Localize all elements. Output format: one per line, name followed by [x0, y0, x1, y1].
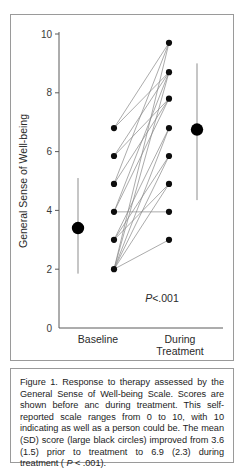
pair-line-9 [114, 156, 169, 269]
y-tick-label-10: 10 [41, 29, 53, 40]
figure-container: 0246810General Sense of Well-beingBaseli… [0, 0, 245, 475]
baseline-point-3 [111, 209, 117, 215]
treatment-point-5 [166, 181, 172, 187]
pair-line-11 [114, 184, 169, 269]
baseline-point-2 [111, 181, 117, 187]
pair-line-17 [114, 99, 169, 156]
treatment-point-0 [166, 40, 172, 46]
baseline-point-1 [111, 153, 117, 159]
mean-marker-1 [191, 123, 203, 135]
plot-panel: 0246810General Sense of Well-beingBaseli… [10, 14, 234, 361]
treatment-point-3 [166, 125, 172, 131]
y-tick-label-6: 6 [46, 146, 52, 157]
treatment-point-1 [166, 69, 172, 75]
pair-line-3 [114, 72, 169, 212]
treatment-point-6 [166, 209, 172, 215]
scatter-plot: 0246810General Sense of Well-beingBaseli… [11, 15, 233, 360]
baseline-point-5 [111, 266, 117, 272]
pvalue-p-symbol: P [145, 292, 152, 304]
y-axis-title: General Sense of Well-being [17, 114, 29, 248]
treatment-point-7 [166, 237, 172, 243]
y-tick-label-8: 8 [46, 87, 52, 98]
caption-p-rest: < .001). [72, 458, 106, 468]
mean-marker-0 [72, 222, 84, 234]
x-category-label-1-0: During [165, 333, 196, 345]
figure-caption-panel: Figure 1. Response to therapy assessed b… [10, 368, 234, 463]
pair-line-4 [114, 128, 169, 240]
baseline-point-0 [111, 125, 117, 131]
y-tick-label-0: 0 [46, 323, 52, 334]
y-tick-label-2: 2 [46, 264, 52, 275]
treatment-point-2 [166, 96, 172, 102]
figure-caption-text: Figure 1. Response to therapy assessed b… [20, 377, 224, 470]
pvalue-annotation: P<.001 [145, 292, 179, 304]
pair-line-8 [114, 156, 169, 240]
caption-figure-label: Figure 1. [20, 377, 58, 387]
pair-line-7 [114, 128, 169, 269]
pair-line-13 [114, 240, 169, 269]
y-tick-label-4: 4 [46, 205, 52, 216]
pair-line-14 [114, 43, 169, 184]
x-category-label-1-1: Treatment [156, 345, 204, 357]
x-category-label-0-0: Baseline [78, 333, 118, 345]
treatment-point-4 [166, 153, 172, 159]
pair-line-16 [114, 72, 169, 128]
caption-body: Response to therapy assessed by the Gene… [20, 377, 224, 468]
baseline-point-4 [111, 237, 117, 243]
pvalue-rest: <.001 [152, 292, 179, 304]
